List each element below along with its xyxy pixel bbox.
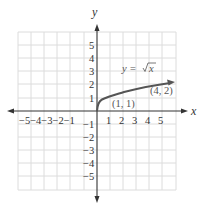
y-tick-5: 5	[89, 40, 94, 51]
x-tick-2: 2	[119, 115, 124, 126]
x-tick-5: 5	[158, 115, 163, 126]
svg-text:x: x	[148, 63, 154, 74]
y-tick-neg3: −3	[83, 145, 94, 156]
point-label-1-1: (1, 1)	[112, 98, 135, 110]
x-tick-4: 4	[145, 115, 151, 126]
equation-label: y = x	[121, 63, 156, 74]
sqrt-graph: y x −5−4−3−2−1 1 2 3 4 5 5 4 3 2 1 −1 −2…	[0, 0, 204, 211]
y-axis-label: y	[91, 5, 98, 19]
y-tick-neg1: −1	[83, 119, 94, 130]
svg-text:y =: y =	[121, 63, 136, 74]
y-tick-4: 4	[89, 53, 95, 64]
x-axis-label: x	[190, 104, 197, 118]
y-tick-3: 3	[89, 66, 94, 77]
x-axis-right-arrow-icon	[181, 109, 188, 114]
point-label-4-2: (4, 2)	[150, 85, 173, 97]
y-tick-neg5: −5	[83, 171, 94, 182]
y-tick-2: 2	[89, 79, 94, 90]
y-axis-up-arrow-icon	[95, 24, 100, 31]
y-axis-down-arrow-icon	[95, 196, 100, 203]
x-tick-3: 3	[132, 115, 137, 126]
y-tick-neg2: −2	[83, 132, 94, 143]
x-axis-left-arrow-icon	[7, 109, 14, 114]
y-tick-neg4: −4	[83, 158, 95, 169]
x-tick-labels-negative: −5−4−3−2−1	[19, 115, 75, 126]
x-tick-1: 1	[106, 115, 111, 126]
y-tick-1: 1	[89, 93, 94, 104]
